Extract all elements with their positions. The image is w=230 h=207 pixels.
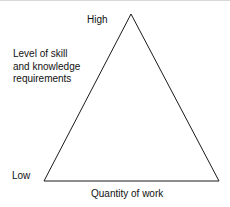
label-skill-line-2: and knowledge xyxy=(13,61,80,74)
triangle-diagram: High Low Quantity of work Level of skill… xyxy=(0,0,230,207)
label-high: High xyxy=(87,14,108,26)
triangle-outline xyxy=(44,14,219,181)
label-skill-line-3: requirements xyxy=(13,73,80,86)
label-skill-requirements: Level of skill and knowledge requirement… xyxy=(13,48,80,86)
label-quantity-of-work: Quantity of work xyxy=(91,188,163,200)
label-low: Low xyxy=(12,170,30,182)
label-skill-line-1: Level of skill xyxy=(13,48,80,61)
triangle-shape xyxy=(0,0,230,207)
